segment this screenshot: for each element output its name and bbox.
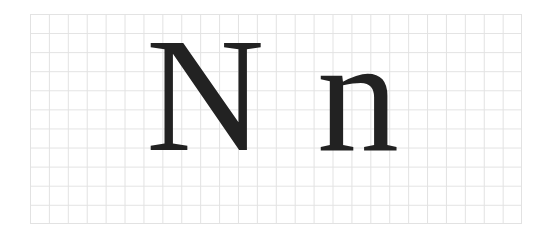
letter-grid-figure: N n <box>0 0 550 236</box>
uppercase-letter: N <box>146 13 264 177</box>
lowercase-letter: n <box>317 14 399 178</box>
background-grid <box>30 14 522 224</box>
